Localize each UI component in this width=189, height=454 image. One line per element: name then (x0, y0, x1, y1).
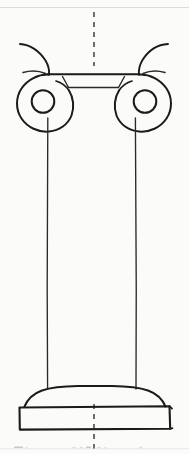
volute-left-icon (17, 75, 73, 132)
column-shaft (47, 118, 136, 389)
volute-right-icon (115, 75, 171, 132)
abacus (48, 74, 140, 87)
column-base-plinth (20, 406, 173, 429)
sketch-canvas (0, 0, 189, 454)
volute-tail-right-icon (139, 44, 168, 75)
volute-tail-left-icon (20, 44, 49, 75)
column-base-torus (25, 386, 166, 407)
ionic-column-drawing (0, 0, 189, 454)
